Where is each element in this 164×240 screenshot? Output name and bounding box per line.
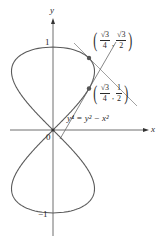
fraction-numerator: √3 [116, 31, 126, 41]
point-lower-label: ( √34 , 12 ) [92, 82, 130, 105]
x-axis-arrow-icon [143, 128, 149, 132]
fraction-numerator: 1 [116, 84, 122, 94]
y-tick-neg1-label: −1 [38, 210, 48, 219]
fraction-denominator: 4 [103, 41, 107, 50]
point-upper [87, 56, 91, 60]
y-axis-label: y [50, 6, 54, 15]
fraction-numerator: √3 [100, 31, 110, 41]
fraction-denominator: 2 [117, 94, 121, 103]
y-axis-arrow-icon [51, 18, 55, 24]
point-lower [87, 86, 91, 90]
fraction-denominator: 2 [119, 41, 123, 50]
point-upper-label: ( √34 , √32 ) [92, 29, 134, 52]
origin-label: 0 [46, 133, 51, 142]
fraction-numerator: √3 [100, 84, 110, 94]
y-tick-1-label: 1 [45, 38, 50, 47]
equation-label: y⁴ = y² − x² [67, 114, 109, 123]
origin-point [51, 128, 54, 131]
x-axis-label: x [151, 125, 155, 134]
fraction-denominator: 4 [103, 94, 107, 103]
